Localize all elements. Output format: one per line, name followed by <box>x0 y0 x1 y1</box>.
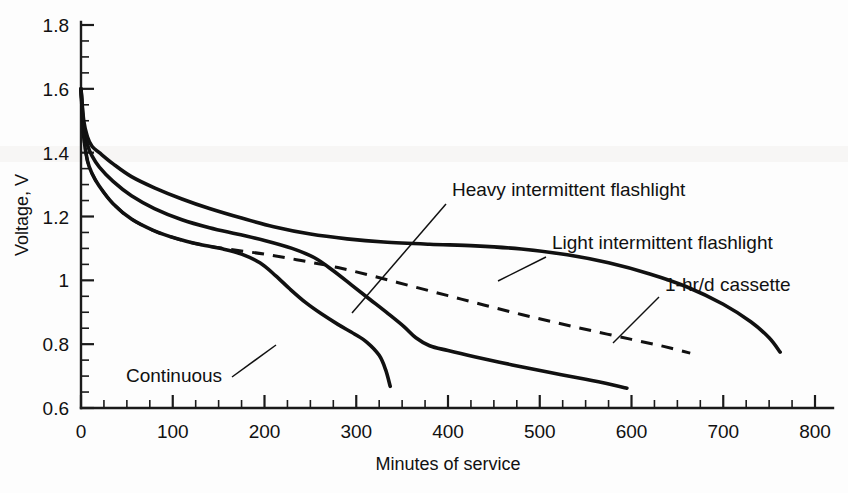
x-tick-label: 700 <box>707 421 739 442</box>
x-tick-label: 300 <box>340 421 372 442</box>
y-tick-label: 0.6 <box>43 398 69 419</box>
x-axis-title: Minutes of service <box>375 454 520 474</box>
x-tick-label: 400 <box>432 421 464 442</box>
x-tick-label: 0 <box>76 421 87 442</box>
y-tick-label: 1 <box>58 270 69 291</box>
y-tick-label: 0.8 <box>43 334 69 355</box>
annotation-label: Continuous <box>126 365 222 386</box>
scan-artifact-band <box>0 146 848 162</box>
x-tick-label: 100 <box>157 421 189 442</box>
y-tick-label: 1.6 <box>43 79 69 100</box>
battery-discharge-chart: 0.60.811.21.41.61.8010020030040050060070… <box>0 0 848 493</box>
annotation-label: Heavy intermittent flashlight <box>452 179 686 200</box>
x-tick-label: 800 <box>799 421 831 442</box>
annotation-label: 1-hr/d cassette <box>665 274 791 295</box>
chart-page: 0.60.811.21.41.61.8010020030040050060070… <box>0 0 848 493</box>
x-tick-label: 600 <box>616 421 648 442</box>
annotation-label: Light intermittent flashlight <box>552 232 773 253</box>
y-tick-label: 1.8 <box>43 15 69 36</box>
y-tick-label: 1.2 <box>43 207 69 228</box>
y-axis-title: Voltage, V <box>12 174 32 256</box>
x-tick-label: 200 <box>249 421 281 442</box>
x-tick-label: 500 <box>524 421 556 442</box>
y-tick-label: 1.4 <box>43 143 70 164</box>
